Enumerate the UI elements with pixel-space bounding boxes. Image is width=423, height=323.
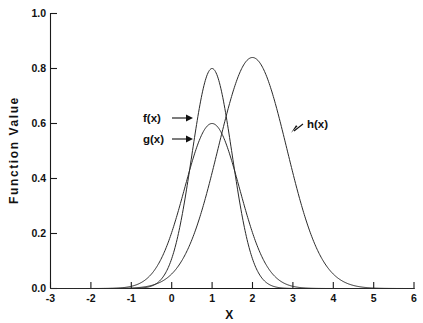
x-tick-label: -2: [86, 292, 95, 304]
y-tick-label: 0.0: [31, 282, 46, 294]
x-tick-label: 0: [169, 292, 175, 304]
x-tick-label: 4: [330, 292, 336, 304]
curve-h-of-x: [51, 58, 415, 289]
x-tick-label: 5: [371, 292, 377, 304]
annotation-arrowhead-f: [186, 114, 193, 121]
y-tick-label: 1.0: [31, 7, 46, 19]
chart-figure: 0.0 0.2 0.4 0.6 0.8 1.0 -3 -2 -1 0 1 2 3…: [0, 0, 423, 323]
annotation-g-of-x: g(x): [143, 133, 193, 145]
annotation-label-g: g(x): [143, 133, 164, 145]
curve-g-of-x: [51, 124, 415, 289]
annotation-h-of-x: h(x): [291, 118, 328, 133]
y-axis-title: Function Value: [7, 96, 21, 204]
annotation-f-of-x: f(x): [143, 112, 193, 124]
y-tick-label: 0.4: [31, 172, 46, 184]
y-axis-ticks: [51, 14, 58, 289]
annotation-arrowhead-g: [186, 135, 193, 142]
y-tick-label: 0.6: [31, 117, 46, 129]
function-plot: 0.0 0.2 0.4 0.6 0.8 1.0 -3 -2 -1 0 1 2 3…: [0, 0, 423, 323]
x-tick-label: 1: [209, 292, 215, 304]
x-tick-label: 6: [411, 292, 417, 304]
x-tick-label: -3: [46, 292, 55, 304]
annotation-label-f: f(x): [143, 112, 161, 124]
x-tick-label: -1: [127, 292, 136, 304]
x-tick-label: 2: [250, 292, 256, 304]
y-tick-label: 0.2: [31, 227, 46, 239]
x-tick-label: 3: [290, 292, 296, 304]
x-axis-ticks: [51, 282, 415, 289]
x-axis-title: X: [225, 308, 235, 322]
curve-f-of-x: [51, 69, 415, 289]
y-tick-label: 0.8: [31, 62, 46, 74]
annotation-label-h: h(x): [307, 118, 328, 130]
